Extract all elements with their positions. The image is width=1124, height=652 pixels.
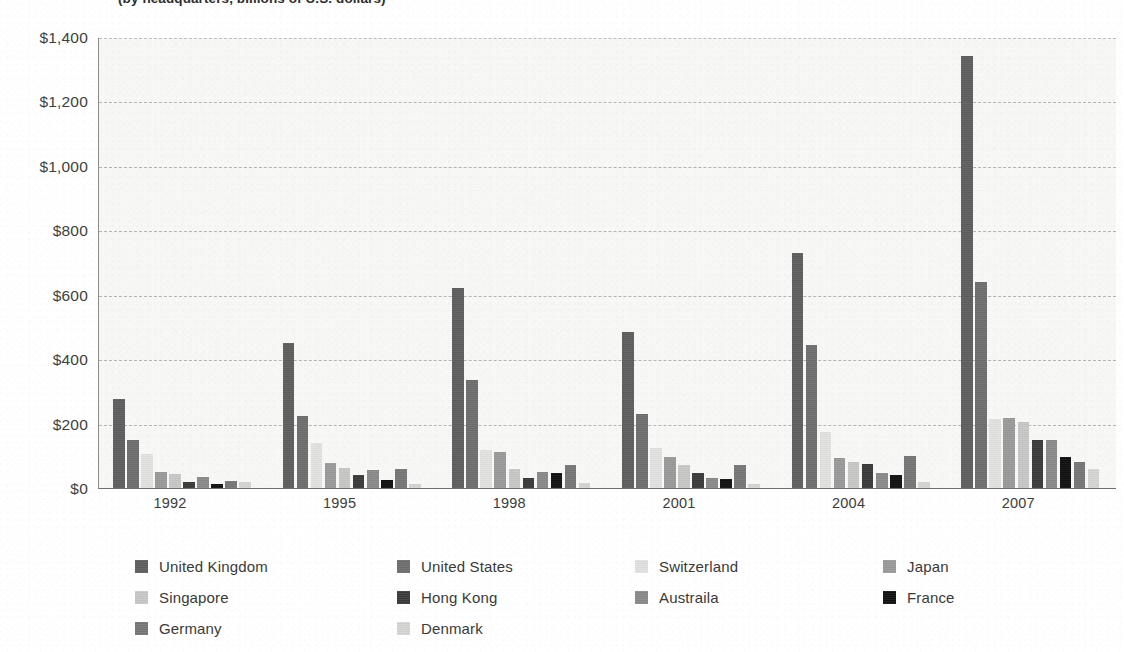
bar	[409, 484, 421, 489]
bar	[1074, 462, 1086, 488]
chart-legend: United KingdomUnited StatesSwitzerlandJa…	[135, 556, 1075, 646]
legend-item[interactable]: Austraila	[635, 587, 719, 607]
legend-item[interactable]: Switzerland	[635, 556, 738, 576]
bar	[664, 457, 676, 488]
bar	[211, 484, 223, 489]
y-tick-label: $400	[53, 351, 88, 369]
legend-item[interactable]: Denmark	[397, 618, 483, 638]
bar	[523, 478, 535, 488]
bar	[1018, 422, 1030, 488]
y-tick-label: $1,400	[39, 29, 88, 47]
bar-group	[961, 38, 1099, 488]
bar	[127, 440, 139, 488]
legend-item-label: United States	[421, 558, 513, 575]
legend-swatch-united-kingdom	[135, 560, 148, 573]
legend-swatch-france	[883, 591, 896, 604]
bar	[283, 343, 295, 488]
bar-group	[792, 38, 930, 488]
bar	[650, 448, 662, 488]
bar	[113, 399, 125, 488]
bar	[904, 456, 916, 488]
legend-item-label: Denmark	[421, 620, 483, 637]
bar	[395, 469, 407, 488]
bar	[918, 482, 930, 488]
bar	[890, 475, 902, 488]
bar	[169, 474, 181, 488]
legend-swatch-united-states	[397, 560, 410, 573]
legend-item[interactable]: Germany	[135, 618, 222, 638]
legend-swatch-switzerland	[635, 560, 648, 573]
x-tick-label: 2007	[1002, 495, 1035, 511]
bar	[989, 419, 1001, 488]
bar	[636, 414, 648, 488]
bar	[734, 465, 746, 488]
bar	[1032, 440, 1044, 488]
bar	[820, 432, 832, 488]
legend-item-label: France	[907, 589, 955, 606]
legend-item[interactable]: United Kingdom	[135, 556, 268, 576]
bar	[1060, 457, 1072, 488]
legend-swatch-austraila	[635, 591, 648, 604]
legend-swatch-singapore	[135, 591, 148, 604]
bar	[692, 473, 704, 488]
bar	[551, 473, 563, 488]
bars-layer	[99, 38, 1116, 488]
bar	[297, 416, 309, 488]
bar	[225, 481, 237, 488]
legend-swatch-japan	[883, 560, 896, 573]
x-tick-label: 1998	[493, 495, 526, 511]
bar-group	[283, 38, 421, 488]
bar	[381, 480, 393, 488]
bar	[1088, 469, 1100, 488]
bar	[848, 462, 860, 488]
bar	[834, 458, 846, 488]
y-tick-label: $1,000	[39, 158, 88, 176]
bar	[353, 475, 365, 488]
legend-swatch-hong-kong	[397, 591, 410, 604]
x-tick-label: 1995	[323, 495, 356, 511]
bar	[565, 465, 577, 488]
legend-item[interactable]: France	[883, 587, 955, 607]
bar	[1046, 440, 1058, 488]
legend-item[interactable]: Singapore	[135, 587, 229, 607]
bar	[311, 443, 323, 488]
bar	[155, 472, 167, 488]
bar-group	[113, 38, 251, 488]
bar	[862, 464, 874, 488]
legend-item-label: Germany	[159, 620, 222, 637]
chart-title: (by headquarters, billions of U.S. dolla…	[118, 0, 1018, 7]
legend-item-label: Hong Kong	[421, 589, 497, 606]
bar	[1003, 418, 1015, 488]
bar	[197, 477, 209, 488]
bar	[339, 468, 351, 488]
bar	[537, 472, 549, 488]
bar	[806, 345, 818, 488]
bar	[325, 463, 337, 488]
x-tick-label: 2001	[662, 495, 695, 511]
legend-item-label: Austraila	[659, 589, 719, 606]
bar	[141, 454, 153, 488]
y-axis: $0$200$400$600$800$1,000$1,200$1,400	[0, 38, 88, 489]
legend-item-label: Japan	[907, 558, 949, 575]
bar-group	[622, 38, 760, 488]
bar	[706, 478, 718, 488]
x-tick-label: 1992	[153, 495, 186, 511]
bar	[239, 482, 251, 488]
y-tick-label: $200	[53, 416, 88, 434]
bar	[480, 450, 492, 488]
bar	[367, 470, 379, 488]
bar	[975, 282, 987, 488]
x-axis: 199219951998200120042007	[98, 495, 1116, 521]
legend-item[interactable]: Hong Kong	[397, 587, 497, 607]
bar-group	[452, 38, 590, 488]
legend-item[interactable]: Japan	[883, 556, 949, 576]
bar	[748, 484, 760, 488]
legend-item-label: United Kingdom	[159, 558, 268, 575]
y-tick-label: $1,200	[39, 93, 88, 111]
bar	[876, 473, 888, 488]
bar	[494, 452, 506, 488]
legend-item[interactable]: United States	[397, 556, 513, 576]
bar	[678, 465, 690, 488]
bar	[622, 332, 634, 488]
bar	[792, 253, 804, 488]
